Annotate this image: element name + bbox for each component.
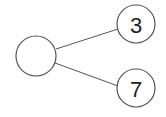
child-node-label: 3 [130,13,142,38]
edge-root-to-7 [55,63,118,86]
edge-root-to-3 [56,29,118,49]
root-node [16,36,56,76]
child-node-3: 3 [117,5,155,43]
child-node-7: 7 [117,69,155,107]
child-node-label: 7 [130,77,142,102]
tree-diagram: 3 7 [0,0,166,117]
